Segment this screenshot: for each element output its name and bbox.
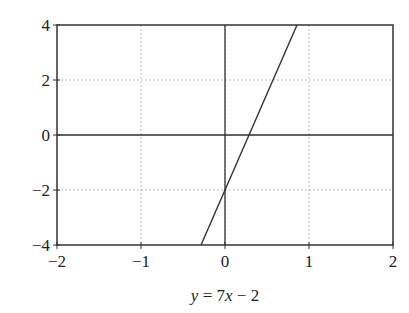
zero-axes: [57, 25, 393, 245]
x-tick-label: 2: [389, 252, 398, 271]
y-tick-label: −2: [32, 181, 50, 200]
x-tick-label: 1: [305, 252, 314, 271]
x-axis-ticks: −2−1012: [48, 242, 397, 271]
x-tick-label: −2: [48, 252, 66, 271]
x-axis-label: y = 7x − 2: [189, 286, 259, 305]
y-tick-label: 2: [42, 71, 51, 90]
line-chart: −2−1012 −4−2024 y = 7x − 2: [0, 0, 409, 313]
y-axis-ticks: −4−2024: [32, 16, 60, 255]
y-tick-label: 0: [42, 126, 51, 145]
y-tick-label: 4: [42, 16, 51, 35]
x-tick-label: 0: [221, 252, 230, 271]
x-tick-label: −1: [132, 252, 150, 271]
y-tick-label: −4: [32, 236, 51, 255]
